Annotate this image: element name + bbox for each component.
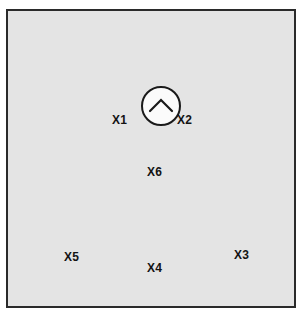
diagram-panel: X1 X2 X6 X5 X4 X3 — [6, 9, 296, 308]
diagram-canvas: X1 X2 X6 X5 X4 X3 — [0, 0, 305, 317]
chevron-up-icon — [148, 97, 174, 115]
circle-node-with-chevron[interactable] — [141, 86, 181, 126]
point-label-x2: X2 — [177, 114, 192, 126]
point-label-x1: X1 — [112, 114, 127, 126]
point-label-x6: X6 — [147, 166, 162, 178]
point-label-x5: X5 — [64, 251, 79, 263]
point-label-x3: X3 — [234, 249, 249, 261]
point-label-x4: X4 — [147, 262, 162, 274]
